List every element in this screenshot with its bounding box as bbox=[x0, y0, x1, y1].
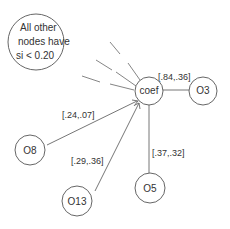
sensitivity-diagram: All other nodes have si < 0.20 [.84,.36]… bbox=[0, 0, 230, 229]
edge-o8-coef bbox=[47, 101, 137, 145]
node-label: O5 bbox=[143, 183, 157, 194]
edges bbox=[47, 90, 189, 191]
node-o5[interactable]: O5 bbox=[135, 173, 165, 203]
node-o8[interactable]: O8 bbox=[15, 135, 45, 165]
note-line-1: All other bbox=[20, 22, 57, 33]
node-coef[interactable]: coef bbox=[135, 77, 163, 105]
stub-line bbox=[110, 42, 120, 54]
node-o3[interactable]: O3 bbox=[189, 77, 217, 105]
node-label: O13 bbox=[68, 196, 87, 207]
stub-line bbox=[96, 60, 112, 70]
edge-o13-coef bbox=[95, 103, 139, 191]
note-bubble: All other nodes have si < 0.20 bbox=[8, 14, 70, 70]
stub-line bbox=[82, 76, 100, 82]
minor-edge-stubs bbox=[82, 42, 140, 90]
edge-label-o3: [.84,.36] bbox=[158, 72, 191, 82]
node-label: O8 bbox=[23, 145, 37, 156]
node-o13[interactable]: O13 bbox=[62, 186, 92, 216]
note-line-2: nodes have bbox=[18, 36, 70, 47]
stub-line bbox=[116, 72, 136, 86]
node-label: coef bbox=[140, 85, 159, 96]
stub-line bbox=[128, 63, 140, 80]
stub-line bbox=[110, 84, 134, 90]
edge-label-o8: [.24,.07] bbox=[62, 110, 95, 120]
node-label: O3 bbox=[196, 85, 210, 96]
note-line-3: si < 0.20 bbox=[16, 50, 55, 61]
edge-label-o13: [.29,.36] bbox=[71, 156, 104, 166]
edge-label-o5: [.37,.32] bbox=[152, 148, 185, 158]
